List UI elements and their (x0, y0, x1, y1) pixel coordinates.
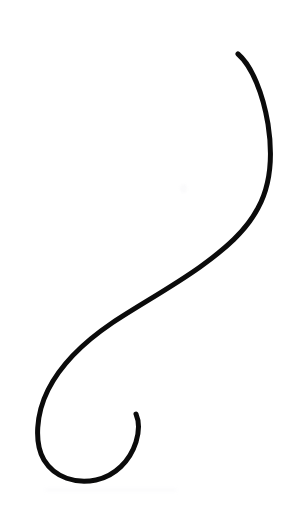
s-curve-flourish-svg (0, 0, 295, 526)
canvas-background (0, 0, 295, 526)
drawing-canvas (0, 0, 295, 526)
